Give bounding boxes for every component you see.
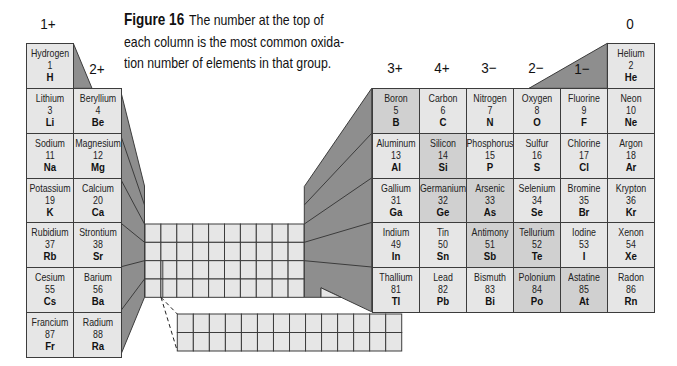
element-symbol: Sb <box>463 250 517 262</box>
element-cell-antimony: Antimony51Sb <box>466 222 514 268</box>
blank-element-cell <box>306 314 322 333</box>
atomic-number: 50 <box>416 238 470 250</box>
element-cell-content: Magnesium12Mg <box>71 137 125 173</box>
atomic-number: 14 <box>416 149 470 161</box>
element-cell-content: Sodium11Na <box>23 137 77 173</box>
element-name: Helium <box>604 47 658 59</box>
element-name: Calcium <box>71 182 125 194</box>
element-cell-content: Nitrogen7N <box>463 92 517 128</box>
element-name: Krypton <box>604 182 658 194</box>
element-cell-content: Beryllium4Be <box>71 92 125 128</box>
blank-element-cell <box>322 314 338 333</box>
blank-element-cell <box>177 224 193 242</box>
blank-element-cell <box>272 261 288 279</box>
blank-element-cell <box>257 314 273 333</box>
element-name: Antimony <box>463 226 517 238</box>
element-symbol: S <box>510 161 564 173</box>
blank-element-cell <box>209 279 225 297</box>
element-name: Phosphorus <box>463 137 517 149</box>
element-cell-bismuth: Bismuth83Bi <box>466 267 514 313</box>
element-cell-carbon: Carbon6C <box>419 88 467 134</box>
blank-element-cell <box>161 242 177 260</box>
element-cell-content: Bromine35Br <box>557 182 611 218</box>
element-cell-content: Astatine85At <box>557 271 611 307</box>
blank-element-cell <box>272 224 288 242</box>
blank-element-cell <box>256 242 272 260</box>
figure-label: Figure 16 <box>124 10 184 28</box>
element-cell-content: Thallium81Tl <box>369 271 423 307</box>
element-symbol: Li <box>23 116 77 128</box>
element-cell-content: Selenium34Se <box>510 182 564 218</box>
element-name: Boron <box>369 92 423 104</box>
element-cell-bromine: Bromine35Br <box>560 178 608 224</box>
element-symbol: Be <box>71 116 125 128</box>
blank-element-cell <box>240 224 256 242</box>
oxidation-label-group-15: 3− <box>481 59 496 76</box>
atomic-number: 82 <box>416 283 470 295</box>
blank-element-cell <box>288 224 304 242</box>
element-cell-potassium: Potassium19K <box>26 178 75 224</box>
element-cell-polonium: Polonium84Po <box>513 267 561 313</box>
element-cell-content: Francium87Fr <box>23 316 77 352</box>
element-symbol: Al <box>369 161 423 173</box>
element-name: Thallium <box>369 271 423 283</box>
blank-element-cell <box>386 314 402 333</box>
atomic-number: 17 <box>557 149 611 161</box>
element-cell-phosphorus: Phosphorus15P <box>466 133 514 179</box>
blank-element-cell <box>272 242 288 260</box>
element-name: Chlorine <box>557 137 611 149</box>
element-symbol: Kr <box>604 206 658 218</box>
element-name: Astatine <box>557 271 611 283</box>
atomic-number: 31 <box>369 194 423 206</box>
blank-element-cell <box>338 333 354 352</box>
blank-element-cell <box>225 242 241 260</box>
element-cell-indium: Indium49In <box>372 222 420 268</box>
element-name: Gallium <box>369 182 423 194</box>
element-name: Selenium <box>510 182 564 194</box>
element-cell-nitrogen: Nitrogen7N <box>466 88 514 134</box>
atomic-number: 38 <box>71 238 125 250</box>
element-cell-content: Strontium38Sr <box>71 226 125 262</box>
element-cell-cesium: Cesium55Cs <box>26 267 75 313</box>
element-cell-tin: Tin50Sn <box>419 222 467 268</box>
blank-element-cell <box>288 261 304 279</box>
element-cell-sulfur: Sulfur16S <box>513 133 561 179</box>
element-symbol: Te <box>510 250 564 262</box>
element-cell-content: Rubidium37Rb <box>23 226 77 262</box>
element-symbol: Cs <box>23 295 77 307</box>
blank-element-cell <box>193 261 209 279</box>
element-cell-francium: Francium87Fr <box>26 312 75 358</box>
periodic-table-figure: Figure 16The number at the top of each c… <box>0 0 677 366</box>
blank-element-cell <box>225 261 241 279</box>
atomic-number: 2 <box>604 59 658 71</box>
blank-element-cell <box>241 314 257 333</box>
element-name: Argon <box>604 137 658 149</box>
atomic-number: 8 <box>510 104 564 116</box>
blank-element-cell <box>338 314 354 333</box>
element-name: Tellurium <box>510 226 564 238</box>
element-cell-sodium: Sodium11Na <box>26 133 75 179</box>
figure-caption: Figure 16The number at the top of each c… <box>124 9 337 74</box>
blank-element-cell <box>177 242 193 260</box>
blank-element-cell <box>288 279 304 297</box>
blank-element-cell <box>209 224 225 242</box>
element-symbol: P <box>463 161 517 173</box>
element-cell-content: Indium49In <box>369 226 423 262</box>
element-symbol: Mg <box>71 161 125 173</box>
oxidation-label-group-17: 1− <box>574 60 589 77</box>
atomic-number: 13 <box>369 149 423 161</box>
atomic-number: 15 <box>463 149 517 161</box>
atomic-number: 53 <box>557 238 611 250</box>
blank-element-cell <box>256 224 272 242</box>
atomic-number: 51 <box>463 238 517 250</box>
blank-element-cell <box>177 314 193 333</box>
element-name: Iodine <box>557 226 611 238</box>
element-cell-lithium: Lithium3Li <box>26 88 75 134</box>
element-symbol: Ba <box>71 295 125 307</box>
element-name: Tin <box>416 226 470 238</box>
atomic-number: 86 <box>604 283 658 295</box>
element-cell-content: Bismuth83Bi <box>463 271 517 307</box>
element-symbol: Se <box>510 206 564 218</box>
element-cell-content: Radium88Ra <box>71 316 125 352</box>
element-cell-krypton: Krypton36Kr <box>607 178 655 224</box>
